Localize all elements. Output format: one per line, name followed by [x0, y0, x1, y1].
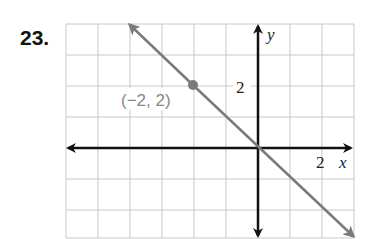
point-marker [188, 80, 198, 90]
grid [66, 24, 354, 238]
x-tick-label: 2 [316, 153, 325, 172]
y-tick-label: 2 [236, 78, 245, 97]
y-axis-label: y [265, 25, 275, 44]
coordinate-plane: (−2, 2) 2 2 x y [0, 0, 374, 239]
x-axis-label: x [338, 153, 347, 172]
point-label: (−2, 2) [121, 91, 171, 110]
graph-line-lower [194, 86, 353, 236]
